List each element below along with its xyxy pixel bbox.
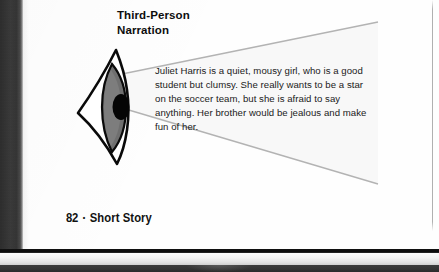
book-gutter-shadow bbox=[0, 0, 23, 249]
bottom-strip-light bbox=[0, 253, 439, 265]
narration-paragraph: Juliet Harris is a quiet, mousy girl, wh… bbox=[155, 64, 370, 134]
page-footer: 82 • Short Story bbox=[66, 211, 152, 225]
eye-icon bbox=[70, 40, 150, 170]
bottom-strip-sheen bbox=[186, 265, 252, 272]
eye-pupil bbox=[113, 94, 130, 120]
page-heading: Third-Person Narration bbox=[117, 8, 287, 37]
footer-section-title: Short Story bbox=[90, 211, 152, 225]
footer-bullet-separator: • bbox=[83, 213, 86, 222]
page-heading-line-1: Third-Person bbox=[117, 8, 287, 23]
page-margin-rule bbox=[432, 0, 433, 231]
page-scan-screenshot: Third-Person Narration Juliet Harris is … bbox=[0, 0, 439, 272]
gutter-noise-texture bbox=[0, 0, 23, 249]
page-heading-line-2: Narration bbox=[117, 23, 287, 38]
footer-page-number: 82 bbox=[66, 211, 78, 225]
